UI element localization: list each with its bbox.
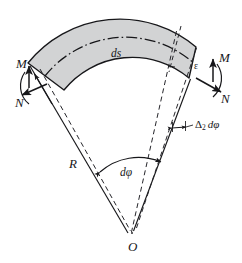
normal-force-arrow-right bbox=[196, 78, 221, 92]
label-arc-length: ds bbox=[111, 48, 121, 60]
label-moment-right: M bbox=[219, 51, 230, 64]
delta-dphi-dimension-arrow bbox=[172, 127, 186, 128]
delta-dphi-leader bbox=[186, 125, 193, 127]
radius-line-right-solid bbox=[134, 79, 191, 231]
label-normal-right: N bbox=[221, 92, 230, 105]
radius-line-left-dashed bbox=[40, 69, 131, 231]
label-angle-increment: dφ bbox=[120, 167, 132, 179]
label-moment-left: M bbox=[16, 57, 27, 70]
curved-beam-element-diagram: M N M N ds R dφ ε O Δ2dφ bbox=[0, 0, 242, 263]
label-delta-angle: dφ bbox=[208, 118, 220, 130]
label-delta-subscript: 2 bbox=[202, 123, 206, 132]
label-rotation-epsilon: ε bbox=[194, 62, 198, 72]
label-normal-left: N bbox=[15, 96, 24, 109]
label-radius: R bbox=[69, 157, 77, 170]
radius-line-right-dashed-outer bbox=[136, 48, 197, 231]
center-point-marker bbox=[131, 232, 133, 234]
label-delta-dphi: Δ2dφ bbox=[195, 119, 219, 132]
label-center-point: O bbox=[128, 240, 137, 253]
radius-line-right-dashed-inner bbox=[132, 31, 177, 232]
